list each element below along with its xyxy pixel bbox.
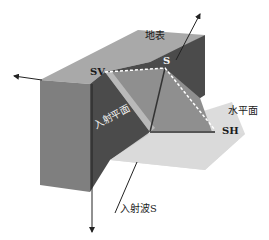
label-horizontal-plane: 水平面 [228,106,258,116]
label-s: S [163,56,170,66]
label-sh: SH [222,126,239,136]
left-arrow [14,76,42,80]
label-sv: SV [90,67,105,77]
front-face [40,80,90,192]
label-surface: 地表 [145,31,165,41]
label-incident-wave: 入射波S [120,204,157,214]
